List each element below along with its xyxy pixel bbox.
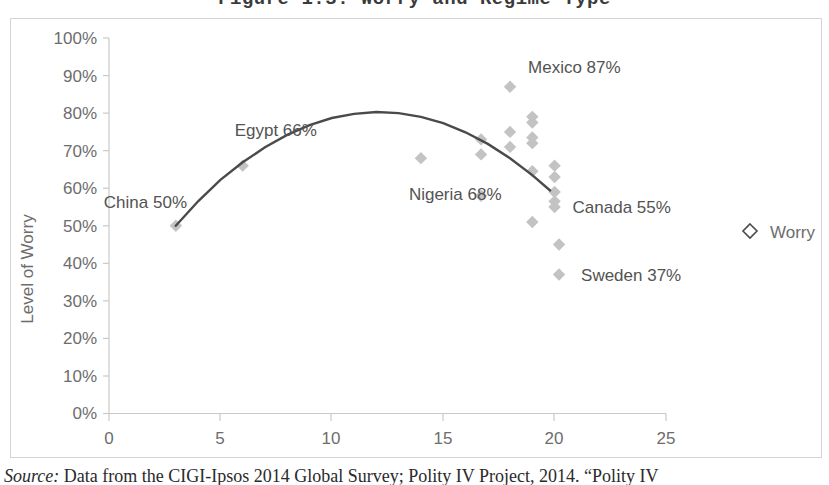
x-tick-label: 15 bbox=[434, 429, 453, 448]
point-annotation: China 50% bbox=[104, 193, 187, 212]
y-tick-label: 10% bbox=[63, 367, 97, 386]
data-point-marker bbox=[415, 152, 427, 164]
y-tick-label: 0% bbox=[72, 404, 97, 423]
y-tick-label: 40% bbox=[63, 254, 97, 273]
y-tick-label: 60% bbox=[63, 179, 97, 198]
point-annotation: Mexico 87% bbox=[528, 58, 621, 77]
x-tick-label: 5 bbox=[215, 429, 224, 448]
y-tick-label: 100% bbox=[54, 29, 97, 48]
x-tick-label: 0 bbox=[104, 429, 113, 448]
chart-frame: Level of Worry 100% 90% 80% 70% 60% 50% … bbox=[10, 18, 822, 458]
x-axis bbox=[109, 414, 666, 422]
data-point-marker bbox=[548, 159, 560, 171]
data-point-marker bbox=[526, 216, 538, 228]
x-tick-label: 10 bbox=[322, 429, 341, 448]
x-tick-labels: 0 5 10 15 20 25 bbox=[104, 429, 675, 448]
y-tick-label: 70% bbox=[63, 142, 97, 161]
data-point-marker bbox=[553, 238, 565, 250]
y-axis bbox=[103, 38, 109, 414]
point-annotation: Canada 55% bbox=[573, 198, 671, 217]
data-point-marker bbox=[504, 81, 516, 93]
y-tick-label: 50% bbox=[63, 217, 97, 236]
y-axis-title: Level of Worry bbox=[18, 214, 37, 324]
y-tick-label: 90% bbox=[63, 67, 97, 86]
y-tick-label: 80% bbox=[63, 104, 97, 123]
source-caption: Source: Data from the CIGI-Ipsos 2014 Gl… bbox=[4, 466, 824, 485]
point-annotations: China 50%Egypt 66%Nigeria 68%Mexico 87%C… bbox=[104, 58, 681, 285]
legend[interactable]: Worry bbox=[743, 223, 816, 242]
data-point-marker bbox=[504, 141, 516, 153]
point-annotation: Egypt 66% bbox=[235, 121, 317, 140]
y-tick-labels: 100% 90% 80% 70% 60% 50% 40% 30% 20% 10%… bbox=[54, 29, 97, 423]
data-point-marker bbox=[475, 148, 487, 160]
x-tick-label: 25 bbox=[657, 429, 676, 448]
y-tick-label: 20% bbox=[63, 329, 97, 348]
data-point-marker bbox=[553, 268, 565, 280]
source-text: Data from the CIGI-Ipsos 2014 Global Sur… bbox=[59, 466, 658, 485]
point-annotation: Sweden 37% bbox=[581, 266, 681, 285]
legend-label-worry: Worry bbox=[770, 223, 816, 242]
open-diamond-icon bbox=[743, 224, 757, 238]
scatter-plot: Level of Worry 100% 90% 80% 70% 60% 50% … bbox=[11, 19, 823, 459]
x-tick-label: 20 bbox=[545, 429, 564, 448]
figure-title: Figure 1.3: Worry and Regime Type bbox=[0, 0, 829, 10]
trend-line bbox=[176, 112, 550, 226]
y-tick-label: 30% bbox=[63, 292, 97, 311]
point-annotation: Nigeria 68% bbox=[409, 185, 502, 204]
source-label: Source: bbox=[4, 466, 59, 485]
data-point-marker bbox=[504, 126, 516, 138]
data-point-marker bbox=[548, 171, 560, 183]
data-markers bbox=[170, 81, 566, 281]
